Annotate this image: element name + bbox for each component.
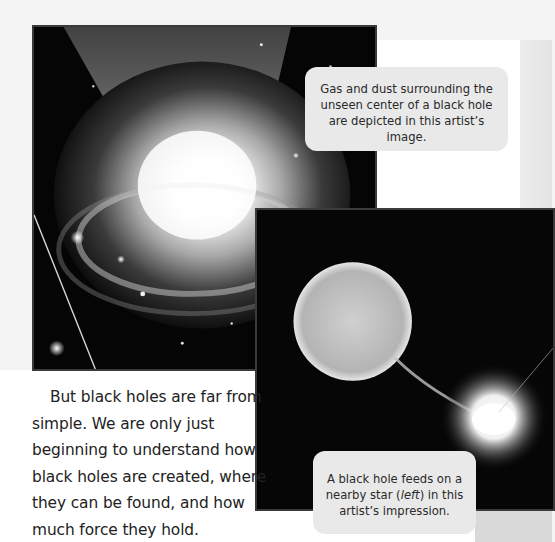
body-paragraph: But black holes are far from simple. We … [32, 384, 272, 542]
caption-gas-dust: Gas and dust surrounding the unseen cent… [305, 67, 508, 151]
page-edge-corner [475, 510, 552, 542]
caption-top-text: Gas and dust surrounding the unseen cent… [313, 81, 500, 145]
caption-bottom-text: A black hole feeds on a nearby star (lef… [319, 471, 470, 519]
caption-black-hole-feeds: A black hole feeds on a nearby star (lef… [313, 451, 476, 534]
body-paragraph-text: But black holes are far from simple. We … [32, 384, 272, 542]
caption-italic-left: left [401, 488, 420, 502]
